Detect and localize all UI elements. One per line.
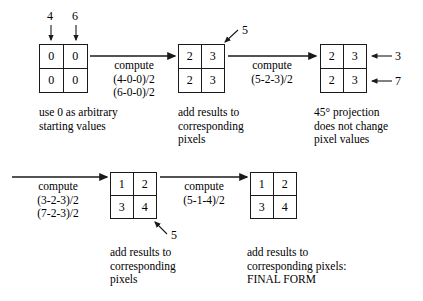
grid-cell: 4 xyxy=(274,196,297,219)
grid-cell: 3 xyxy=(344,69,367,93)
diagonal-label-top: 5 xyxy=(242,24,248,36)
grid-cell: 3 xyxy=(111,196,134,219)
compute-label-2: compute (5-2-3)/2 xyxy=(234,59,310,86)
figure-canvas: 4 6 0 0 0 0 compute (4-0-0)/2 (6-0-0)/2 … xyxy=(0,0,423,301)
grid-after-45-projection[interactable]: 2 3 2 3 xyxy=(320,44,367,93)
grid-cell: 2 xyxy=(179,45,202,69)
grid-cell: 2 xyxy=(274,173,297,196)
grid-cell: 0 xyxy=(64,69,88,93)
grid2-caption: add results to corresponding pixels xyxy=(178,106,298,147)
compute-label-3: compute (3-2-3)/2 (7-2-3)/2 xyxy=(20,180,96,221)
final-grid-caption: add results to corresponding pixels: FIN… xyxy=(247,246,387,287)
grid-cell: 2 xyxy=(321,69,344,93)
input-label-right: 6 xyxy=(72,10,78,22)
compute-label-1: compute (4-0-0)/2 (6-0-0)/2 xyxy=(96,59,172,100)
grid4-caption: add results to corresponding pixels xyxy=(110,246,230,287)
grid-cell: 0 xyxy=(64,45,88,69)
diagonal-arrow-top xyxy=(225,30,238,42)
grid-cell: 2 xyxy=(179,69,202,93)
final-grid[interactable]: 1 2 3 4 xyxy=(250,172,297,219)
grid-cell: 0 xyxy=(40,69,64,93)
starting-grid[interactable]: 0 0 0 0 xyxy=(39,44,88,93)
grid-cell: 2 xyxy=(321,45,344,69)
grid-cell: 1 xyxy=(251,173,274,196)
diagonal-arrow-bottom xyxy=(155,222,167,234)
grid-cell: 0 xyxy=(40,45,64,69)
grid-cell: 3 xyxy=(251,196,274,219)
grid-cell: 2 xyxy=(134,173,157,196)
grid-cell: 4 xyxy=(134,196,157,219)
compute-label-4: compute (5-1-4)/2 xyxy=(166,180,242,207)
grid-cell: 3 xyxy=(344,45,367,69)
grid-cell: 3 xyxy=(202,45,225,69)
grid-after-row-compute[interactable]: 1 2 3 4 xyxy=(110,172,157,219)
grid3-caption: 45° projection does not change pixel val… xyxy=(314,106,423,147)
diagonal-label-bottom: 5 xyxy=(171,229,177,241)
grid-after-first-compute[interactable]: 2 3 2 3 xyxy=(178,44,225,93)
grid-cell: 3 xyxy=(202,69,225,93)
starting-grid-caption: use 0 as arbitrary starting values xyxy=(39,106,164,133)
output-label-bottom: 7 xyxy=(395,75,401,87)
grid-cell: 1 xyxy=(111,173,134,196)
output-label-top: 3 xyxy=(395,50,401,62)
input-label-left: 4 xyxy=(47,10,53,22)
